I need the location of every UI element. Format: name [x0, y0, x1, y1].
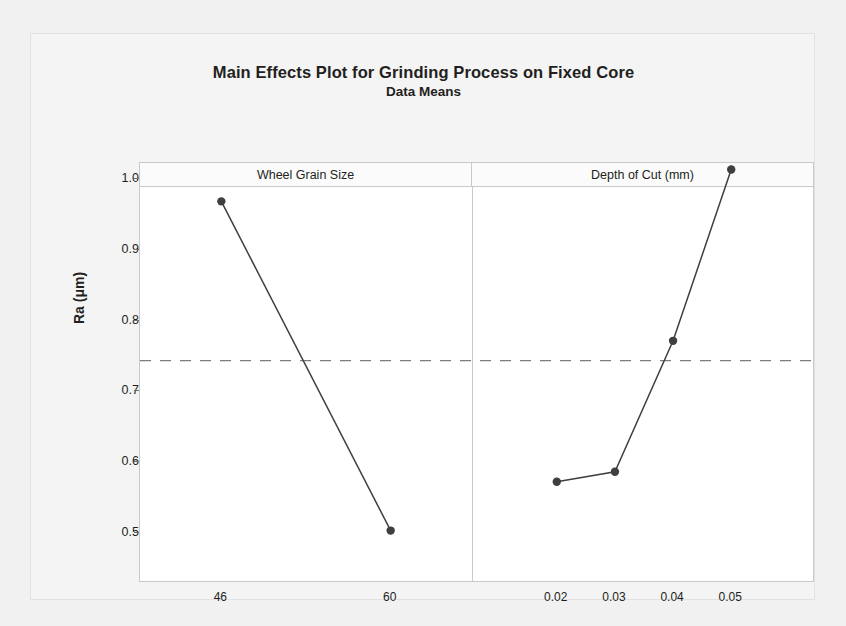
x-tick-label: 0.04 [660, 590, 683, 604]
y-tick-label: 0.6 [81, 454, 139, 468]
y-tick-label: 0.5 [81, 525, 139, 539]
data-point-marker [669, 337, 677, 345]
data-point-marker [386, 526, 394, 534]
series-line [557, 170, 731, 482]
series-layer [140, 187, 815, 582]
panel-header-band: Wheel Grain Size Depth of Cut (mm) [139, 162, 814, 187]
panel-header-wheel-grain-size: Wheel Grain Size [140, 163, 471, 186]
data-point-marker [727, 165, 735, 173]
x-tick-label: 0.03 [602, 590, 625, 604]
y-tick-label: 0.9 [81, 242, 139, 256]
chart-figure: Main Effects Plot for Grinding Process o… [0, 0, 846, 626]
chart-title: Main Effects Plot for Grinding Process o… [31, 62, 816, 82]
x-tick-label: 0.02 [544, 590, 567, 604]
x-tick-label: 46 [214, 590, 227, 604]
y-tick-label: 1.0 [81, 171, 139, 185]
plot-data-frame [139, 187, 814, 582]
chart-card: Main Effects Plot for Grinding Process o… [30, 33, 815, 600]
y-axis-ticks: 1.00.90.80.70.60.5 [73, 162, 139, 582]
series-line [221, 201, 390, 530]
plot-area: Wheel Grain Size Depth of Cut (mm) [139, 162, 814, 582]
chart-subtitle: Data Means [31, 83, 816, 101]
x-tick-label: 60 [383, 590, 396, 604]
y-tick-label: 0.8 [81, 313, 139, 327]
title-block: Main Effects Plot for Grinding Process o… [31, 62, 816, 101]
data-point-marker [611, 468, 619, 476]
data-point-marker [217, 197, 225, 205]
y-tick-label: 0.7 [81, 383, 139, 397]
x-tick-label: 0.05 [719, 590, 742, 604]
data-point-marker [553, 478, 561, 486]
panel-header-depth-of-cut: Depth of Cut (mm) [471, 163, 813, 186]
